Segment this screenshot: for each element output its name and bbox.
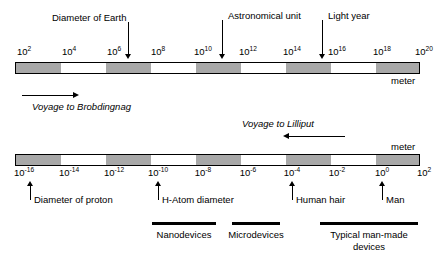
scale-segment-top-2 — [196, 63, 241, 73]
annotation-pointer-line-man — [382, 186, 383, 200]
tick-label-bottom-2: 10-12 — [104, 168, 124, 178]
tick-exp-top-1: 4 — [72, 45, 76, 52]
macro-scale-bar — [15, 62, 420, 74]
tick-base-top-5: 10 — [239, 46, 250, 57]
range-label-typical-man-made-devices-line1: Typical man-made — [330, 229, 408, 240]
tick-base-bottom-2: 10 — [104, 167, 115, 178]
annotation-pointer-line-diameter-of-proton — [30, 186, 31, 200]
tick-exp-bottom-6: -4 — [294, 166, 300, 173]
tick-base-bottom-6: 10 — [284, 167, 295, 178]
scale-segment-bottom-1 — [106, 155, 151, 165]
tick-base-top-7: 10 — [328, 46, 339, 57]
tick-label-top-4: 1010 — [194, 47, 212, 57]
tick-label-top-2: 106 — [107, 47, 121, 57]
tick-base-top-0: 10 — [17, 46, 28, 57]
tick-label-bottom-5: 10-6 — [240, 168, 256, 178]
tick-base-top-4: 10 — [194, 46, 205, 57]
tick-exp-top-5: 12 — [250, 45, 257, 52]
tick-exp-top-4: 10 — [205, 45, 212, 52]
voyage-arrow-shaft-lilliput — [289, 136, 345, 137]
tick-exp-bottom-5: -6 — [250, 166, 256, 173]
micro-scale-bar — [15, 154, 420, 166]
tick-exp-top-0: 2 — [27, 45, 31, 52]
tick-label-bottom-6: 10-4 — [284, 168, 300, 178]
tick-base-top-8: 10 — [373, 46, 384, 57]
annotation-pointer-line-light-year — [322, 20, 323, 55]
annotation-label-human-hair: Human hair — [296, 194, 345, 205]
voyage-label-lilliput: Voyage to Lilliput — [242, 118, 314, 129]
tick-label-top-9: 1020 — [415, 47, 433, 57]
tick-exp-bottom-7: -2 — [339, 166, 345, 173]
range-bar-nanodevices — [152, 222, 216, 225]
tick-exp-top-8: 18 — [384, 45, 391, 52]
annotation-pointer-line-diameter-of-earth — [128, 22, 129, 55]
tick-base-top-6: 10 — [283, 46, 294, 57]
annotation-label-astronomical-unit: Astronomical unit — [228, 10, 301, 21]
tick-base-bottom-3: 10 — [148, 167, 159, 178]
tick-label-top-1: 104 — [62, 47, 76, 57]
tick-label-bottom-8: 100 — [375, 168, 389, 178]
range-label-typical-man-made-devices-line2: devices — [353, 241, 385, 252]
tick-label-bottom-4: 10-8 — [195, 168, 211, 178]
range-label-nanodevices: Nanodevices — [157, 229, 212, 240]
tick-base-bottom-9: 10 — [417, 167, 428, 178]
tick-label-top-8: 1018 — [373, 47, 391, 57]
annotation-pointer-line-astronomical-unit — [222, 20, 223, 55]
tick-base-top-2: 10 — [107, 46, 118, 57]
tick-base-bottom-0: 10 — [14, 167, 25, 178]
arrow-right-icon-brobdingnag — [73, 92, 79, 98]
scale-segment-top-0 — [16, 63, 61, 73]
annotation-label-diameter-of-earth: Diameter of Earth — [52, 12, 126, 23]
annotation-label-h-atom-diameter: H-Atom diameter — [162, 194, 234, 205]
range-bar-typical-man-made-devices — [320, 222, 418, 225]
scale-segment-top-4 — [376, 63, 420, 73]
range-bar-microdevices — [232, 222, 280, 225]
tick-base-bottom-4: 10 — [195, 167, 206, 178]
tick-label-bottom-3: 10-10 — [148, 168, 168, 178]
tick-base-bottom-1: 10 — [59, 167, 70, 178]
tick-exp-bottom-9: 2 — [427, 166, 431, 173]
unit-label-bottom: meter — [391, 142, 415, 152]
tick-base-bottom-5: 10 — [240, 167, 251, 178]
unit-label-top: meter — [391, 76, 415, 86]
scale-segment-top-1 — [106, 63, 151, 73]
tick-exp-bottom-8: 0 — [385, 166, 389, 173]
tick-label-top-0: 102 — [17, 47, 31, 57]
tick-base-bottom-7: 10 — [329, 167, 340, 178]
arrow-down-icon-diameter-of-earth — [125, 54, 131, 59]
scale-segment-bottom-2 — [196, 155, 241, 165]
tick-exp-top-6: 14 — [294, 45, 301, 52]
arrow-down-icon-light-year — [319, 54, 325, 59]
tick-label-bottom-9: 102 — [417, 168, 431, 178]
length-scale-diagram: Diameter of Earth Astronomical unit Ligh… — [0, 0, 442, 259]
voyage-arrow-shaft-brobdingnag — [22, 95, 74, 96]
tick-exp-top-7: 16 — [339, 45, 346, 52]
tick-base-top-3: 10 — [151, 46, 162, 57]
tick-exp-top-2: 6 — [117, 45, 121, 52]
annotation-label-diameter-of-proton: Diameter of proton — [34, 194, 113, 205]
tick-base-top-1: 10 — [62, 46, 73, 57]
tick-label-top-7: 1016 — [328, 47, 346, 57]
tick-exp-bottom-0: -16 — [25, 166, 35, 173]
range-label-microdevices: Microdevices — [228, 229, 283, 240]
annotation-pointer-line-human-hair — [292, 186, 293, 200]
tick-base-bottom-8: 10 — [375, 167, 386, 178]
tick-exp-bottom-2: -12 — [115, 166, 125, 173]
arrow-down-icon-astronomical-unit — [219, 54, 225, 59]
tick-label-top-3: 108 — [151, 47, 165, 57]
tick-label-top-5: 1012 — [239, 47, 257, 57]
arrow-left-icon-lilliput — [283, 133, 289, 139]
annotation-label-man: Man — [386, 194, 404, 205]
tick-label-top-6: 1014 — [283, 47, 301, 57]
tick-exp-top-9: 20 — [426, 45, 433, 52]
scale-segment-bottom-3 — [286, 155, 331, 165]
tick-exp-top-3: 8 — [161, 45, 165, 52]
scale-segment-top-3 — [286, 63, 331, 73]
tick-exp-bottom-4: -8 — [205, 166, 211, 173]
tick-base-top-9: 10 — [415, 46, 426, 57]
tick-label-bottom-7: 10-2 — [329, 168, 345, 178]
scale-segment-bottom-4 — [376, 155, 420, 165]
tick-label-bottom-1: 10-14 — [59, 168, 79, 178]
annotation-pointer-line-h-atom-diameter — [158, 186, 159, 200]
scale-segment-bottom-0 — [16, 155, 61, 165]
